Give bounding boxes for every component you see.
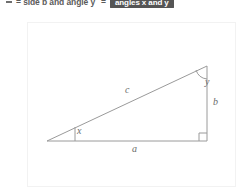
label-side-b: b: [213, 97, 218, 107]
answer-badge[interactable]: angles x and y: [110, 0, 174, 8]
diagram-card: [27, 22, 236, 187]
answer-text-line: = side b and angle y = angles x and y: [0, 0, 249, 8]
label-side-c: c: [125, 85, 129, 95]
answer-text: = side b and angle y: [16, 0, 95, 7]
label-angle-y: y: [205, 77, 209, 87]
equals-sign: =: [101, 0, 106, 7]
dash-bullet-icon: [6, 1, 12, 3]
label-side-a: a: [132, 144, 137, 154]
label-angle-x: x: [77, 126, 81, 136]
